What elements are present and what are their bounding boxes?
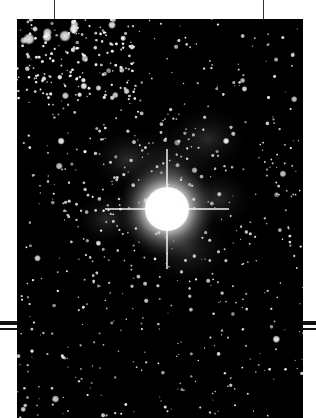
star	[244, 230, 249, 235]
star	[269, 325, 274, 330]
star	[196, 43, 198, 45]
star	[33, 67, 35, 69]
star	[282, 239, 284, 241]
star	[159, 130, 163, 134]
star	[29, 221, 30, 222]
star	[255, 371, 256, 373]
star	[160, 400, 161, 401]
star	[100, 229, 102, 231]
star	[141, 328, 143, 330]
star	[157, 322, 161, 326]
star	[62, 107, 64, 109]
star	[264, 292, 265, 293]
star	[216, 150, 219, 153]
star	[44, 53, 47, 56]
star	[192, 254, 196, 258]
star	[27, 371, 29, 373]
side-bar-right-thin	[303, 328, 316, 330]
star	[179, 382, 181, 384]
star	[111, 181, 112, 182]
star	[217, 411, 218, 412]
star	[142, 317, 144, 319]
star	[82, 324, 83, 325]
star	[126, 130, 129, 133]
star	[274, 57, 279, 62]
star	[252, 45, 253, 46]
star	[159, 328, 161, 330]
star	[213, 167, 216, 170]
star	[161, 371, 165, 375]
star	[42, 332, 45, 335]
star	[212, 278, 214, 280]
star	[143, 281, 148, 286]
star	[60, 65, 62, 67]
star	[41, 278, 43, 280]
side-bar-left-thin	[0, 328, 17, 330]
star	[214, 345, 215, 346]
star	[290, 196, 292, 198]
star	[80, 209, 83, 212]
star	[83, 238, 85, 240]
star	[57, 74, 62, 79]
star	[109, 292, 111, 294]
star	[143, 257, 145, 259]
star	[224, 372, 226, 374]
star	[221, 334, 222, 335]
star	[52, 114, 54, 116]
star	[64, 219, 65, 220]
star	[67, 132, 68, 133]
star	[276, 167, 277, 168]
star	[159, 298, 161, 300]
star	[105, 34, 107, 36]
star	[101, 395, 102, 396]
star	[145, 361, 147, 363]
star	[54, 184, 55, 185]
star	[218, 302, 219, 303]
star	[116, 249, 120, 253]
star	[149, 73, 151, 75]
star	[186, 158, 189, 161]
star	[87, 394, 89, 396]
star	[94, 32, 97, 35]
star	[141, 323, 143, 325]
star	[67, 181, 70, 184]
star	[195, 278, 197, 280]
star	[112, 184, 113, 185]
star	[113, 176, 117, 180]
star	[290, 147, 292, 149]
star	[66, 213, 69, 216]
star	[264, 370, 265, 371]
star	[209, 411, 211, 413]
star	[131, 25, 134, 28]
star	[113, 320, 114, 321]
star	[238, 69, 240, 71]
star	[152, 142, 153, 143]
star	[62, 92, 69, 99]
star	[127, 25, 129, 27]
star	[180, 341, 181, 342]
star	[230, 215, 232, 217]
star	[137, 111, 139, 113]
star	[267, 33, 269, 35]
star	[292, 194, 294, 196]
star	[296, 267, 298, 269]
star	[115, 117, 117, 119]
star	[86, 96, 88, 98]
star	[245, 293, 247, 295]
star	[57, 137, 65, 145]
star	[238, 64, 240, 66]
star	[81, 78, 86, 83]
star	[47, 145, 48, 146]
star	[284, 163, 286, 165]
star	[110, 321, 114, 325]
side-bar-right	[303, 321, 316, 325]
star	[88, 25, 90, 27]
star	[105, 138, 106, 139]
star	[191, 146, 193, 148]
star	[277, 184, 281, 188]
star	[167, 313, 168, 314]
star	[176, 118, 178, 120]
star	[185, 128, 187, 130]
star	[75, 169, 76, 170]
star-field-canvas	[17, 19, 303, 418]
